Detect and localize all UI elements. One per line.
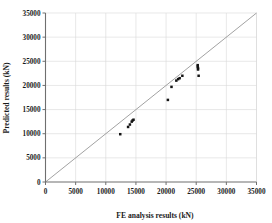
data-point xyxy=(132,118,135,121)
y-tick-label: 30000 xyxy=(23,34,41,42)
x-tick-label: 35000 xyxy=(248,188,266,196)
x-tick-label: 20000 xyxy=(157,188,175,196)
data-point xyxy=(170,86,173,89)
y-tick-label: 15000 xyxy=(23,106,41,114)
data-point xyxy=(167,99,170,102)
x-tick-label: 10000 xyxy=(97,188,115,196)
y-axis-title: Predicted results (kN) xyxy=(2,62,11,133)
data-point xyxy=(181,75,184,78)
x-tick-label: 25000 xyxy=(187,188,205,196)
scatter-chart: 05000100001500020000250003000035000 0500… xyxy=(0,0,272,223)
data-point xyxy=(197,75,200,78)
x-tick-label: 5000 xyxy=(68,188,83,196)
y-tick-label: 0 xyxy=(37,179,41,187)
y-tick-label: 20000 xyxy=(23,82,41,90)
chart-canvas: 05000100001500020000250003000035000 0500… xyxy=(0,0,272,223)
data-point xyxy=(178,77,181,80)
y-tick-label: 5000 xyxy=(26,154,41,162)
data-point xyxy=(129,123,132,126)
x-tick-label: 15000 xyxy=(127,188,145,196)
y-tick-label: 10000 xyxy=(23,130,41,138)
data-point xyxy=(119,133,122,136)
data-point xyxy=(127,126,130,129)
x-tick-label: 30000 xyxy=(217,188,235,196)
x-axis-title: FE analysis results (kN) xyxy=(116,211,194,220)
x-tick-label: 0 xyxy=(44,188,48,196)
data-point xyxy=(197,68,200,71)
y-tick-label: 25000 xyxy=(23,58,41,66)
y-tick-label: 35000 xyxy=(23,10,41,18)
